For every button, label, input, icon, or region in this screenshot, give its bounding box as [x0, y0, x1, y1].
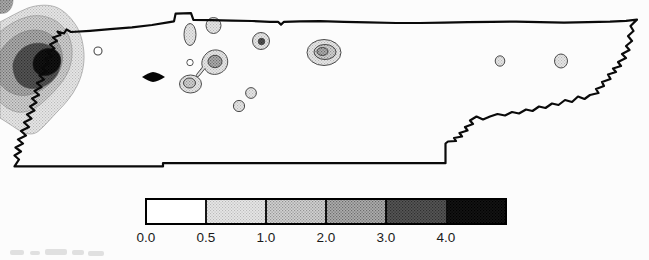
scan-artifact [10, 249, 104, 256]
legend-tick-5: 4.0 [437, 230, 456, 245]
legend-tick-3: 2.0 [317, 230, 336, 245]
contour-ring [187, 59, 193, 65]
legend-swatch-4 [386, 199, 446, 224]
legend-swatch-2 [266, 199, 326, 224]
contour-blob-core [258, 38, 264, 44]
filled-lens-marker [142, 72, 165, 82]
contour-blob [184, 24, 196, 46]
legend-swatch-3 [326, 199, 386, 224]
contour-anomalies [94, 18, 568, 112]
legend-tick-2: 1.0 [257, 230, 276, 245]
legend-tick-1: 0.5 [197, 230, 216, 245]
contour-blob-core [208, 55, 222, 67]
legend-swatch-5 [446, 199, 506, 224]
contour-blob [555, 54, 568, 68]
contour-blob [495, 56, 505, 66]
contour-blob-core [184, 78, 196, 88]
legend-swatch-0 [146, 199, 206, 224]
contour-blob [246, 88, 257, 99]
legend-swatch-1 [206, 199, 266, 224]
tennessee-contour-figure: 0.0 0.5 1.0 2.0 3.0 4.0 [0, 0, 649, 260]
legend-tick-0: 0.0 [137, 230, 156, 245]
legend-tick-4: 3.0 [377, 230, 396, 245]
contour-ring [94, 47, 102, 55]
corner-contour-patch [0, 0, 13, 14]
state-outline [15, 13, 638, 166]
tennessee-map [0, 0, 637, 166]
legend-colorbar: 0.0 0.5 1.0 2.0 3.0 4.0 [137, 199, 506, 245]
contour-blob [233, 100, 244, 111]
contour-blob-core [317, 48, 328, 56]
scanned-figure-page: 0.0 0.5 1.0 2.0 3.0 4.0 [0, 0, 649, 260]
